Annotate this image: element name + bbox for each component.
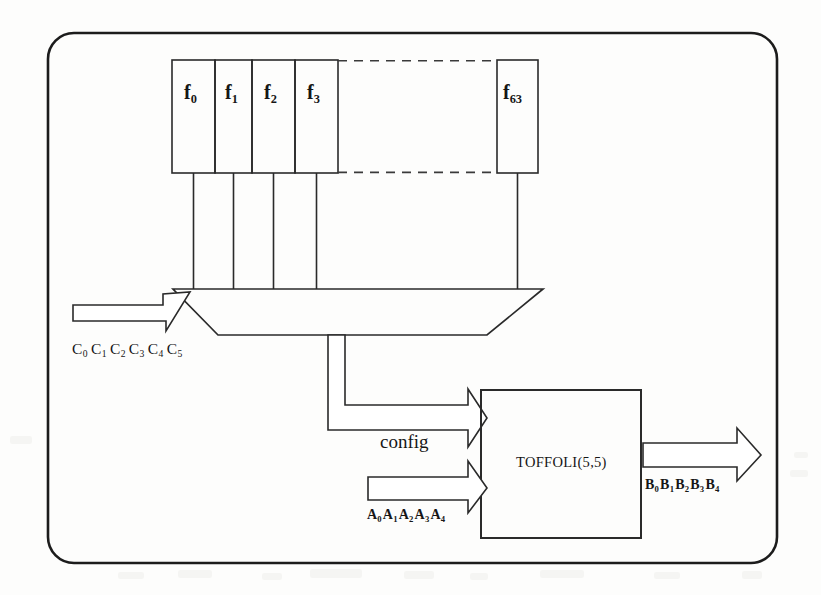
c-select-bus-arrow[interactable] xyxy=(73,292,190,331)
lut-cell-label-f63: f63 xyxy=(503,82,522,105)
bus-bit: A1 xyxy=(383,507,398,522)
bus-bit: A3 xyxy=(415,507,430,522)
lut-ellipsis-dashed xyxy=(338,61,497,173)
lut-cell-f63[interactable] xyxy=(497,60,538,173)
lut-cell-label-f0: f0 xyxy=(184,82,197,105)
lut-cell-f3[interactable] xyxy=(295,60,338,173)
bus-bit: B4 xyxy=(705,477,719,492)
diagram-canvas: f0 f1 f2 f3 f63 C0C1C2C3C4C5 config TOFF… xyxy=(0,0,821,595)
bus-bit: C4 xyxy=(148,340,164,357)
bus-bit: C5 xyxy=(167,340,183,357)
function-lookup-table xyxy=(172,60,538,173)
diagram-vector-layer xyxy=(0,0,821,595)
lut-to-mux-wires xyxy=(194,173,518,289)
bus-bit: A0 xyxy=(367,507,382,522)
bus-bit: C3 xyxy=(129,340,145,357)
bus-bit: A4 xyxy=(430,507,445,522)
bus-bit: A2 xyxy=(399,507,414,522)
bus-bit: B2 xyxy=(675,477,689,492)
lut-cell-f0[interactable] xyxy=(172,60,215,173)
multiplexer[interactable] xyxy=(173,289,543,335)
bus-bit: C1 xyxy=(91,340,107,357)
lut-cell-label-f2: f2 xyxy=(264,82,277,105)
toffoli-gate-label: TOFFOLI(5,5) xyxy=(516,455,607,470)
lut-cell-f1[interactable] xyxy=(215,60,252,173)
bus-bit: B0 xyxy=(645,477,659,492)
lut-cell-label-f3: f3 xyxy=(307,82,320,105)
b-output-bus-arrow[interactable] xyxy=(643,428,761,481)
bus-bit: B3 xyxy=(690,477,704,492)
a-input-bus-arrow[interactable] xyxy=(368,461,487,513)
a-input-bus-label: A0A1A2A3A4 xyxy=(367,508,445,523)
c-select-bus-label: C0C1C2C3C4C5 xyxy=(72,341,183,358)
bus-bit: B1 xyxy=(660,477,674,492)
b-output-bus-label: B0B1B2B3B4 xyxy=(645,478,719,493)
bus-bit: C0 xyxy=(72,340,88,357)
bus-bit: C2 xyxy=(110,340,126,357)
lut-cell-label-f1: f1 xyxy=(225,82,238,105)
config-bus-label: config xyxy=(380,432,429,451)
lut-cell-f2[interactable] xyxy=(252,60,295,173)
